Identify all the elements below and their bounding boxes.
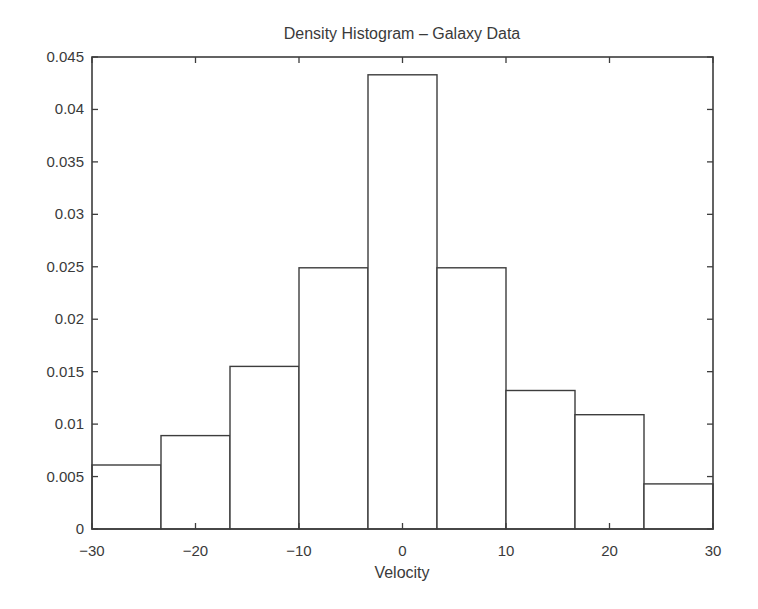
y-tick-label: 0.025 — [46, 258, 84, 275]
y-tick-label: 0 — [76, 520, 84, 537]
y-tick-label: 0.045 — [46, 48, 84, 65]
y-tick-label: 0.035 — [46, 153, 84, 170]
x-tick-label: 30 — [705, 542, 722, 559]
histogram-bar — [506, 391, 575, 530]
y-tick-label: 0.02 — [55, 310, 84, 327]
histogram-bar — [437, 268, 506, 529]
x-axis-label: Velocity — [374, 564, 429, 581]
y-tick-label: 0.04 — [55, 100, 84, 117]
x-tick-label: −20 — [183, 542, 208, 559]
chart-title: Density Histogram – Galaxy Data — [284, 25, 521, 42]
histogram-bar — [299, 268, 368, 529]
x-tick-label: −10 — [286, 542, 311, 559]
histogram-bar — [644, 484, 713, 529]
histogram-bar — [368, 75, 437, 529]
y-tick-label: 0.005 — [46, 468, 84, 485]
y-tick-label: 0.03 — [55, 205, 84, 222]
y-tick-label: 0.01 — [55, 415, 84, 432]
figure: 00.0050.010.0150.020.0250.030.0350.040.0… — [0, 0, 758, 609]
y-tick-label: 0.015 — [46, 363, 84, 380]
x-tick-label: 20 — [601, 542, 618, 559]
x-tick-label: 0 — [398, 542, 406, 559]
histogram-bar — [575, 415, 644, 529]
x-tick-label: −30 — [79, 542, 104, 559]
x-tick-label: 10 — [498, 542, 515, 559]
histogram-bar — [92, 465, 161, 529]
histogram-bar — [161, 436, 230, 529]
histogram-chart: 00.0050.010.0150.020.0250.030.0350.040.0… — [0, 0, 758, 609]
bars-layer — [92, 75, 713, 529]
histogram-bar — [230, 366, 299, 529]
